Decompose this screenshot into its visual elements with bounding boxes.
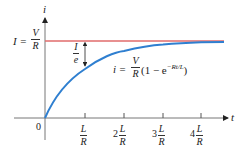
- gap-den: e: [74, 55, 78, 65]
- eq-paren: (1 − e: [141, 64, 167, 76]
- y-axis-label: i: [43, 4, 46, 15]
- tick-num: L: [120, 124, 126, 134]
- tick-coef-3: 3: [152, 128, 157, 139]
- tick-den: R: [80, 137, 86, 147]
- tick-num: L: [159, 124, 165, 134]
- x-axis-label: t: [231, 112, 234, 123]
- tick-label-2: LR: [119, 124, 126, 147]
- eq-num: V: [132, 56, 138, 66]
- eq-fraction: V R: [131, 56, 140, 79]
- eq-right: (1 − e−Rt/L): [141, 64, 187, 76]
- tick-coef-4: 4: [190, 128, 195, 139]
- current-curve: [45, 42, 224, 118]
- asymptote-label-left: I =: [13, 36, 27, 47]
- tick-num: L: [197, 124, 203, 134]
- tick-label-4: LR: [196, 124, 203, 147]
- tick-label-1: LR: [80, 124, 87, 147]
- tick-den: R: [158, 137, 164, 147]
- asym-den: R: [32, 41, 38, 51]
- tick-label-3: LR: [158, 124, 165, 147]
- tick-den: R: [196, 137, 202, 147]
- gap-num: I: [74, 42, 77, 52]
- eq-den: R: [132, 69, 138, 79]
- asymptote-fraction: V R: [31, 28, 40, 51]
- tick-den: R: [119, 137, 125, 147]
- tick-num: L: [81, 124, 87, 134]
- asym-num: V: [32, 28, 38, 38]
- eq-exponent: −Rt/L: [167, 63, 184, 71]
- gap-fraction: I e: [73, 42, 79, 65]
- eq-close: ): [184, 64, 188, 76]
- tick-coef-2: 2: [113, 128, 118, 139]
- eq-left: i =: [113, 64, 126, 75]
- origin-label: 0: [36, 122, 41, 132]
